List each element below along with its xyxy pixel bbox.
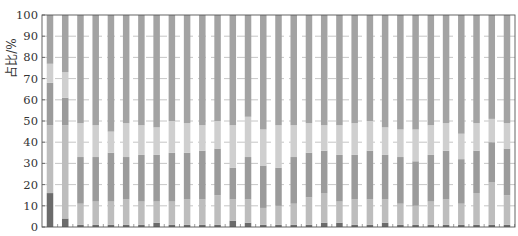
bar-segment xyxy=(260,166,267,208)
bar-segment xyxy=(473,123,480,151)
bar-segment xyxy=(306,197,313,225)
y-tick-label: 70 xyxy=(23,72,38,86)
bar-segment xyxy=(443,199,450,224)
bar-segment xyxy=(351,155,358,200)
bar-segment xyxy=(47,64,54,83)
bar-segment xyxy=(138,125,145,155)
bar-segment xyxy=(458,134,465,159)
bar-segment xyxy=(245,157,252,199)
bar-segment xyxy=(489,15,496,119)
bar-segment xyxy=(62,98,68,126)
bar-segment xyxy=(290,204,297,225)
bar-segment xyxy=(47,125,54,193)
bar-segment xyxy=(62,15,68,72)
bar-segment xyxy=(321,223,328,227)
bar-segment xyxy=(169,15,176,121)
bar-segment xyxy=(184,199,191,224)
bar-segment xyxy=(489,142,496,182)
bar-segment xyxy=(77,15,84,123)
y-tick-labels: 0102030405060708090100 xyxy=(16,8,38,234)
bar-segment xyxy=(504,15,511,123)
bar-segment xyxy=(275,168,282,206)
bar-segment xyxy=(184,153,191,200)
bar-segment xyxy=(412,206,419,225)
bar-segment xyxy=(504,149,511,196)
bar-segment xyxy=(489,182,496,224)
bar-segment xyxy=(245,223,252,227)
bar-segment xyxy=(397,129,404,157)
bar-segment xyxy=(336,202,343,223)
stacked-bar-chart: 0102030405060708090100 占比/% xyxy=(0,0,518,236)
bar-segment xyxy=(443,123,450,151)
bar-segment xyxy=(92,125,99,157)
bar-segment xyxy=(153,155,160,202)
bar-segment xyxy=(336,15,343,125)
bar-segment xyxy=(382,199,389,222)
bar-segment xyxy=(199,199,206,224)
bar-segment xyxy=(138,15,145,125)
bar-segment xyxy=(260,15,267,129)
bar-segment xyxy=(260,129,267,165)
bar-segment xyxy=(184,123,191,153)
bar-segment xyxy=(62,72,68,97)
y-tick-label: 0 xyxy=(31,220,38,234)
bar-segment xyxy=(489,119,496,142)
bar-segment xyxy=(62,219,68,227)
bar-segment xyxy=(321,193,328,223)
bar-segment xyxy=(92,15,99,125)
bar-segment xyxy=(153,223,160,227)
bar-segment xyxy=(275,206,282,225)
bar-segment xyxy=(230,199,237,220)
bar-segment xyxy=(367,199,374,224)
bar-segment xyxy=(290,157,297,204)
bar-segment xyxy=(443,15,450,123)
bar-segment xyxy=(214,15,221,121)
bar-segment xyxy=(412,161,419,206)
bar-segment xyxy=(473,193,480,225)
bar-segment xyxy=(184,15,191,123)
bar-segment xyxy=(275,125,282,167)
bar-segment xyxy=(92,157,99,202)
bar-segment xyxy=(458,204,465,225)
bar-segment xyxy=(397,157,404,204)
bar-segment xyxy=(47,15,54,64)
bar-segment xyxy=(290,15,297,125)
bar-segment xyxy=(230,125,237,167)
bar-segment xyxy=(443,151,450,200)
bar-segment xyxy=(367,151,374,200)
bar-segment xyxy=(290,125,297,157)
bar-segment xyxy=(382,155,389,200)
bar-segment xyxy=(77,204,84,225)
y-tick-label: 30 xyxy=(23,156,38,170)
bar-segment xyxy=(123,123,130,157)
y-tick-label: 100 xyxy=(16,8,38,22)
bar-segment xyxy=(169,153,176,202)
bar-segment xyxy=(123,157,130,199)
bar-segment xyxy=(351,123,358,155)
bar-segment xyxy=(245,199,252,222)
y-tick-label: 10 xyxy=(23,199,38,213)
bar-segment xyxy=(230,221,237,227)
bar-segment xyxy=(321,15,328,125)
bar-segment xyxy=(428,202,435,225)
bar-segment xyxy=(199,15,206,125)
bar-segment xyxy=(245,117,252,157)
bar-segment xyxy=(306,15,313,123)
bar-segment xyxy=(473,151,480,193)
bar-segment xyxy=(260,208,267,225)
bar-segment xyxy=(47,193,54,227)
bar-segment xyxy=(77,123,84,157)
bar-segment xyxy=(47,83,54,125)
bar-segment xyxy=(214,121,221,149)
bar-segment xyxy=(336,125,343,155)
y-axis-label: 占比/% xyxy=(4,38,19,77)
bar-segment xyxy=(306,153,313,198)
bar-segment xyxy=(108,132,115,153)
bar-segment xyxy=(230,15,237,125)
bar-segment xyxy=(306,123,313,153)
bar-segment xyxy=(123,199,130,224)
bar-segment xyxy=(367,121,374,151)
bar-segment xyxy=(382,223,389,227)
bar-segment xyxy=(336,155,343,202)
bar-segment xyxy=(153,202,160,223)
